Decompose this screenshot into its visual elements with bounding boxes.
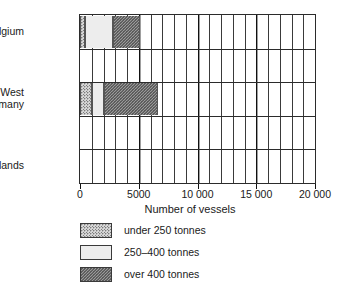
category-label-line: Netherlands (0, 159, 24, 171)
x-axis-title-text: Number of vessels (144, 203, 235, 215)
x-tick-label: 5000 (127, 188, 150, 200)
bar-segment (85, 16, 113, 48)
category-label-west-germany: WestGermany (0, 86, 24, 110)
x-axis-title: Number of vessels (0, 203, 344, 215)
bar-west-germany (80, 83, 315, 115)
bar-segment (80, 83, 92, 115)
x-tick-label: 10 000 (181, 188, 213, 200)
legend-swatch (80, 245, 112, 260)
x-tick-label: 20 000 (299, 188, 331, 200)
x-tick-label: 0 (77, 188, 83, 200)
legend-label: under 250 tonnes (124, 224, 206, 236)
bars-layer (80, 15, 315, 183)
bar-segment (104, 83, 158, 115)
category-label-line: Germany (0, 98, 24, 110)
category-label-line: Belgium (0, 25, 24, 37)
bar-belgium (80, 16, 315, 48)
category-label-line: West (0, 86, 24, 98)
bar-segment (113, 16, 140, 48)
category-label-netherlands: Netherlands (0, 159, 24, 171)
x-tick-label: 15 000 (240, 188, 272, 200)
plot-area (79, 14, 316, 184)
vessels-bar-chart: BelgiumWestGermanyNetherlands 0500010 00… (0, 0, 344, 292)
legend-label: over 400 tonnes (124, 268, 199, 280)
bar-segment (92, 83, 104, 115)
legend-swatch (80, 267, 112, 282)
legend-swatch (80, 223, 112, 238)
category-label-belgium: Belgium (0, 25, 24, 37)
legend-label: 250–400 tonnes (124, 246, 199, 258)
